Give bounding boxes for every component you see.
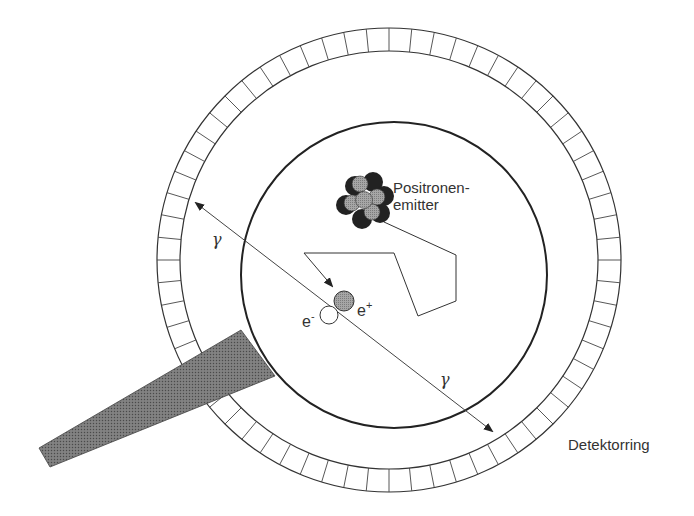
detector-segment (573, 359, 593, 370)
detector-segment (563, 376, 582, 389)
detector-segment (450, 460, 457, 482)
detector-segment (537, 408, 553, 424)
detector-ring-label: Detektorring (568, 436, 650, 453)
detector-segment (158, 280, 181, 282)
detector-segment (175, 171, 196, 180)
detector-segment (522, 81, 537, 99)
detector-segment (551, 113, 569, 128)
detector-segment (196, 131, 215, 144)
detector-segment (488, 444, 499, 464)
detector-segment (430, 465, 434, 488)
detector-segment (225, 96, 241, 112)
detector-segment (597, 237, 620, 239)
detector-segment (573, 151, 593, 162)
detector-segment (409, 468, 411, 491)
detector-segment (582, 340, 603, 349)
positron-emitter-nucleus-icon (336, 172, 394, 229)
detector-segment (551, 393, 569, 408)
electron-particle (320, 306, 338, 324)
pet-diagram: Positronen- emitter e- e+ γ γ Detektorri… (0, 0, 694, 516)
detector-segment (225, 408, 241, 424)
gamma-label-upper: γ (212, 230, 222, 249)
detector-segment (344, 465, 348, 488)
detector-segment (563, 131, 582, 144)
detector-segment (161, 215, 184, 219)
detector-segment (300, 46, 309, 67)
gamma-line-lower (343, 316, 492, 431)
patient-bed (39, 330, 275, 467)
emitter-label-line1: Positronen- (393, 179, 470, 196)
detector-segment (175, 340, 196, 349)
detector-segment (366, 29, 368, 52)
detector-segment (522, 422, 537, 440)
detector-segment (537, 96, 553, 112)
field-of-view-circle (241, 122, 547, 428)
detector-segment (344, 32, 348, 55)
detector-segment (322, 460, 329, 482)
detector-segment (322, 38, 329, 60)
detector-segment (167, 193, 189, 200)
positron-particle (334, 291, 354, 311)
detector-segment (366, 468, 368, 491)
gamma-label-lower: γ (440, 370, 450, 389)
detector-segment (594, 301, 617, 305)
electron-label: e- (302, 310, 315, 330)
detector-segment (582, 171, 603, 180)
detector-segment (167, 321, 189, 328)
emitter-label-line2: emitter (393, 196, 439, 213)
detector-segment (589, 321, 611, 328)
detector-segment (589, 193, 611, 200)
detector-segment (594, 215, 617, 219)
detector-segment (469, 46, 478, 67)
detector-segment (505, 434, 518, 453)
positron-label: e+ (357, 299, 372, 319)
detector-segment (260, 434, 273, 453)
detector-segment (242, 422, 257, 440)
detector-segment (158, 237, 181, 239)
detector-segment (505, 67, 518, 86)
detector-segment (210, 113, 228, 128)
detector-segment (409, 29, 411, 52)
detector-segment (469, 453, 478, 474)
detector-segments (157, 28, 621, 492)
detector-segment (450, 38, 457, 60)
positron-path (304, 222, 456, 316)
detector-segment (430, 32, 434, 55)
detector-ring (157, 28, 621, 492)
detector-segment (280, 55, 291, 75)
detector-segment (280, 444, 291, 464)
detector-segment (242, 81, 257, 99)
detector-segment (597, 280, 620, 282)
detector-segment (161, 301, 184, 305)
detector-segment (488, 55, 499, 75)
detector-segment (260, 67, 273, 86)
detector-segment (300, 453, 309, 474)
detector-segment (184, 151, 204, 162)
gamma-line (196, 203, 343, 316)
